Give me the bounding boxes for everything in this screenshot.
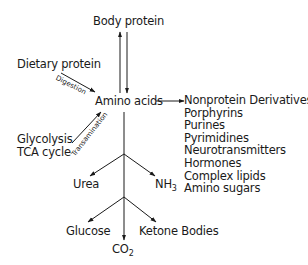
node-co2: CO2 bbox=[112, 243, 134, 256]
arrow-to-glucose bbox=[88, 197, 124, 222]
node-dietary-protein: Dietary protein bbox=[17, 58, 101, 71]
node-ketone-bodies: Ketone Bodies bbox=[139, 225, 219, 238]
node-urea: Urea bbox=[73, 178, 99, 191]
nonprotein-derivatives-list: Nonprotein Derivatives Porphyrins Purine… bbox=[184, 94, 308, 195]
list-item: Hormones bbox=[184, 157, 308, 170]
list-item: Purines bbox=[184, 119, 308, 132]
node-tca-cycle: TCA cycle bbox=[17, 146, 71, 159]
list-item: Nonprotein Derivatives bbox=[184, 94, 308, 107]
list-item: Amino sugars bbox=[184, 182, 308, 195]
node-nh3: NH3 bbox=[155, 178, 177, 191]
node-glucose: Glucose bbox=[66, 225, 110, 238]
arrow-to-ketone bbox=[124, 197, 156, 222]
arrow-to-urea bbox=[90, 154, 124, 176]
node-body-protein: Body protein bbox=[93, 15, 164, 28]
arrow-to-nh3 bbox=[124, 154, 155, 176]
node-amino-acids: Amino acids bbox=[95, 95, 163, 108]
